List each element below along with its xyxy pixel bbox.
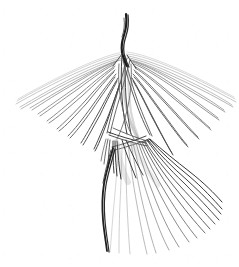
left-wing-fan <box>16 52 124 151</box>
lower-skirt-fan <box>101 139 222 254</box>
top-stem <box>113 14 136 68</box>
artwork-canvas: Abstract line-art sketch of a winged fig… <box>0 0 239 267</box>
sketch-svg <box>0 0 239 267</box>
